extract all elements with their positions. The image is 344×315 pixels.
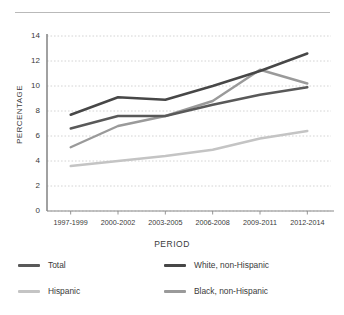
- legend-item-label: Hispanic: [48, 286, 80, 296]
- y-tick-label: 2: [18, 181, 40, 190]
- legend-item[interactable]: White, non-Hispanic: [164, 258, 269, 272]
- legend-color-swatch: [18, 290, 40, 293]
- y-axis-title: PERCENTAGE: [15, 75, 24, 155]
- legend-color-swatch: [18, 264, 40, 267]
- y-tick-label: 4: [18, 156, 40, 165]
- data-series-group: [71, 54, 308, 167]
- chart-legend: TotalWhite, non-HispanicHispanicBlack, n…: [18, 258, 328, 308]
- y-tick-label: 12: [18, 56, 40, 65]
- x-tick-label: 1997-1999: [46, 218, 96, 227]
- y-tick-label: 14: [18, 31, 40, 40]
- x-tick-label: 2012-2014: [282, 218, 332, 227]
- x-tick-label: 2000-2002: [93, 218, 143, 227]
- x-tick-label: 2006-2008: [188, 218, 238, 227]
- legend-item-label: Black, non-Hispanic: [194, 286, 268, 296]
- x-tick-label: 2003-2005: [140, 218, 190, 227]
- legend-color-swatch: [164, 290, 186, 293]
- series-line: [71, 54, 308, 115]
- y-tick-label: 0: [18, 206, 40, 215]
- legend-color-swatch: [164, 264, 186, 267]
- x-tick-label: 2009-2011: [235, 218, 285, 227]
- x-axis-title: PERIOD: [0, 239, 344, 249]
- legend-item-label: White, non-Hispanic: [194, 260, 269, 270]
- legend-item-label: Total: [48, 260, 66, 270]
- legend-item[interactable]: Black, non-Hispanic: [164, 284, 268, 298]
- chart-plot-area: 02468101214 1997-19992000-20022003-20052…: [0, 0, 344, 260]
- chart-figure: 02468101214 1997-19992000-20022003-20052…: [0, 0, 344, 315]
- legend-item[interactable]: Hispanic: [18, 284, 80, 298]
- legend-item[interactable]: Total: [18, 258, 66, 272]
